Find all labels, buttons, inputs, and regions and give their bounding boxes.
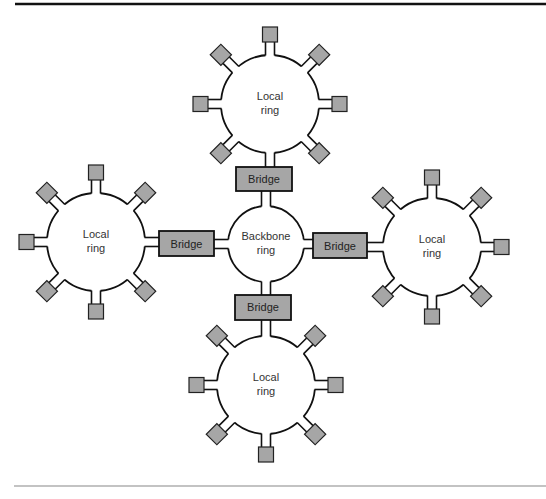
station-link	[385, 278, 395, 288]
station-icon	[263, 27, 278, 42]
station-link	[297, 338, 307, 348]
bridge-left-label: Bridge	[171, 238, 203, 250]
station-icon	[89, 165, 104, 180]
station-icon	[36, 182, 57, 203]
station-link	[391, 284, 401, 294]
station-link	[229, 57, 239, 67]
station-icon	[372, 286, 393, 307]
station-icon	[328, 378, 343, 393]
station-icon	[89, 304, 104, 319]
station-link	[307, 135, 317, 145]
station-icon	[210, 44, 231, 65]
station-link	[463, 200, 473, 210]
station-link	[225, 338, 235, 348]
station-link	[229, 141, 239, 151]
bridge-top-label: Bridge	[248, 173, 280, 185]
station-link	[463, 284, 473, 294]
station-icon	[135, 281, 156, 302]
station-link	[301, 57, 311, 67]
station-link	[223, 63, 233, 73]
station-link	[55, 279, 65, 289]
right-ring-label-1: Local	[419, 233, 445, 245]
station-icon	[471, 286, 492, 307]
station-icon	[309, 44, 330, 65]
station-icon	[372, 187, 393, 208]
station-icon	[305, 325, 326, 346]
bridge-bottom-label: Bridge	[247, 301, 279, 313]
station-link	[225, 422, 235, 432]
station-icon	[425, 170, 440, 185]
top-ring-label-1: Local	[257, 90, 283, 102]
station-link	[55, 195, 65, 205]
station-link	[303, 416, 313, 426]
station-link	[297, 422, 307, 432]
left-ring-label-2: ring	[87, 242, 105, 254]
station-icon	[193, 97, 208, 112]
station-icon	[332, 97, 347, 112]
station-link	[219, 344, 229, 354]
backbone-label-1: Backbone	[242, 230, 291, 242]
station-icon	[309, 143, 330, 164]
station-link	[49, 273, 59, 283]
bottom-ring-label-1: Local	[253, 371, 279, 383]
station-icon	[305, 424, 326, 445]
station-link	[133, 201, 143, 211]
station-link	[469, 206, 479, 216]
top-ring-label-2: ring	[261, 104, 279, 116]
token-ring-diagram: Local ring Local ring Local ring Local r…	[0, 0, 546, 499]
station-link	[385, 206, 395, 216]
station-link	[223, 135, 233, 145]
bottom-ring-label-2: ring	[257, 385, 275, 397]
bridge-right-label: Bridge	[324, 240, 356, 252]
station-link	[307, 63, 317, 73]
station-icon	[471, 187, 492, 208]
station-link	[303, 344, 313, 354]
station-link	[301, 141, 311, 151]
station-icon	[259, 447, 274, 462]
station-icon	[36, 281, 57, 302]
station-link	[469, 278, 479, 288]
station-icon	[210, 143, 231, 164]
station-icon	[494, 240, 509, 255]
backbone-label-2: ring	[257, 244, 275, 256]
station-icon	[189, 378, 204, 393]
station-icon	[135, 182, 156, 203]
station-icon	[19, 235, 34, 250]
station-link	[391, 200, 401, 210]
right-ring-label-2: ring	[423, 247, 441, 259]
station-link	[133, 273, 143, 283]
station-link	[127, 279, 137, 289]
station-link	[49, 201, 59, 211]
left-ring-label-1: Local	[83, 228, 109, 240]
station-icon	[425, 309, 440, 324]
station-link	[127, 195, 137, 205]
station-link	[219, 416, 229, 426]
station-icon	[206, 325, 227, 346]
station-icon	[206, 424, 227, 445]
